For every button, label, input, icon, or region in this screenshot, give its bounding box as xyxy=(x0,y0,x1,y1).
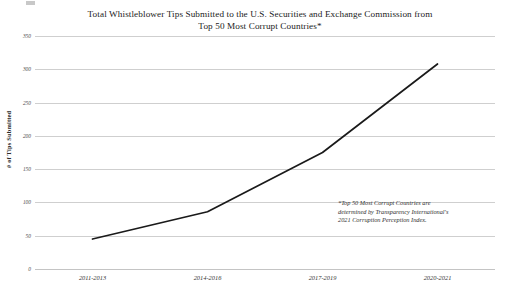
y-axis-tick-label: 100 xyxy=(23,199,31,205)
y-axis-tick-label: 200 xyxy=(23,133,31,139)
line-chart-figure: Total Whistleblower Tips Submitted to th… xyxy=(0,0,509,302)
chart-title-line-2: Top 50 Most Corrupt Countries* xyxy=(198,21,321,31)
plot-area: 050100150200250300350 xyxy=(35,36,495,269)
y-axis-tick-label: 0 xyxy=(28,266,31,272)
gridline-0: 0 xyxy=(35,269,495,270)
y-axis-tick-label: 300 xyxy=(23,66,31,72)
chart-title-line-1: Total Whistleblower Tips Submitted to th… xyxy=(88,9,433,19)
annotation-line-3: 2021 Corruption Perception Index. xyxy=(338,216,427,223)
y-axis-tick-label: 250 xyxy=(23,100,31,106)
x-axis-tick-label: 2011-2013 xyxy=(79,274,106,281)
x-axis-tick-label: 2014-2016 xyxy=(194,274,222,281)
series-line xyxy=(35,36,495,269)
x-axis-tick-label: 2020-2021 xyxy=(424,274,452,281)
annotation-line-2: determined by Transparency International… xyxy=(338,208,448,215)
x-axis-tick-labels: 2011-20132014-20162017-20192020-2021 xyxy=(35,274,495,288)
chart-title: Total Whistleblower Tips Submitted to th… xyxy=(60,8,460,33)
y-axis-tick-label: 350 xyxy=(23,33,31,39)
y-axis-tick-label: 50 xyxy=(26,233,31,239)
annotation-line-1: *Top 50 Most Corrupt Countries are xyxy=(338,199,430,206)
y-axis-tick-label: 150 xyxy=(23,166,31,172)
x-axis-tick-label: 2017-2019 xyxy=(309,274,337,281)
y-axis-title: # of Tips Submitted xyxy=(5,111,12,168)
chart-footnote-annotation: *Top 50 Most Corrupt Countries are deter… xyxy=(338,199,488,225)
